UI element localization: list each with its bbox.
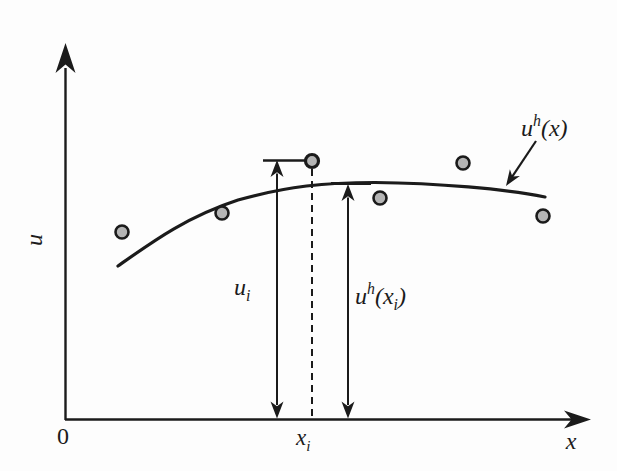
fitted-curve	[118, 183, 545, 267]
uh-x-pointer-line	[511, 141, 536, 178]
axes-layer	[56, 43, 592, 429]
uh-x-pointer-head	[506, 169, 520, 186]
x-axis-label: x	[565, 428, 577, 454]
origin-label: 0	[57, 423, 69, 449]
data-point	[216, 207, 229, 220]
uh-x-label: uh(x)	[521, 112, 568, 141]
ui-label: ui	[234, 274, 250, 304]
figure-svg: 0uxxiuiuh(xi)uh(x)	[0, 0, 617, 471]
data-point	[457, 157, 470, 170]
figure-container: 0uxxiuiuh(xi)uh(x)	[0, 0, 617, 471]
data-point	[537, 210, 550, 223]
y-axis-label: u	[21, 234, 47, 246]
data-point-xi	[306, 155, 319, 168]
xi-tick-label: xi	[295, 425, 310, 454]
labels-layer: 0uxxiuiuh(xi)uh(x)	[21, 112, 577, 454]
curve-layer	[118, 183, 545, 267]
uh-xi-label: uh(xi)	[355, 280, 406, 313]
data-point	[116, 226, 129, 239]
data-point	[374, 192, 387, 205]
